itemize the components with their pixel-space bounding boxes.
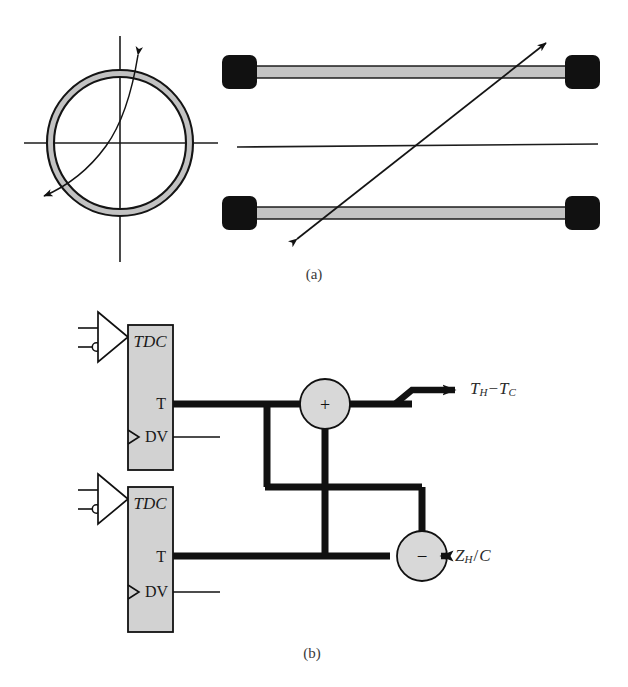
rod-bottom-bar bbox=[246, 207, 582, 219]
rod-bottom-cap-right bbox=[565, 196, 600, 230]
tc-sub: C bbox=[508, 386, 515, 398]
rod-bottom-cap-left bbox=[222, 196, 257, 230]
c-base: C bbox=[479, 546, 490, 565]
th-operator: − bbox=[487, 379, 499, 398]
rod-top-cap-left bbox=[222, 55, 257, 89]
subtractor-node-symbol: − bbox=[417, 546, 428, 567]
tdc-block-top-port-dv: DV bbox=[145, 428, 169, 445]
tdc-block-top-port-t: T bbox=[156, 395, 166, 412]
technical-figure: TDC T DV TDC T DV bbox=[0, 0, 628, 687]
panel-b-caption: (b) bbox=[272, 645, 352, 662]
tdc-block-bottom-label: TDC bbox=[133, 494, 167, 513]
panel-a-caption: (a) bbox=[274, 266, 354, 283]
output-label-th-minus-tc: TH−TC bbox=[470, 379, 516, 399]
subtractor-node: − bbox=[397, 531, 447, 581]
adder-node: + bbox=[300, 379, 350, 429]
rod-top-cap-right bbox=[565, 55, 600, 89]
rod-top-bar bbox=[246, 66, 582, 78]
tdc-block-bottom-port-dv: DV bbox=[145, 583, 169, 600]
tdc-block-bottom-port-t: T bbox=[156, 548, 166, 565]
tdc-block-top-label: TDC bbox=[133, 332, 167, 351]
output-label-zh-over-c: ZH/C bbox=[455, 546, 491, 566]
adder-node-symbol: + bbox=[320, 395, 330, 415]
